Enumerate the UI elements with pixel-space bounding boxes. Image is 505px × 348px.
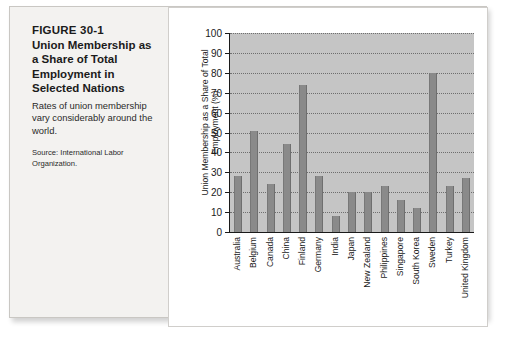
y-axis-tick-label: 0 bbox=[216, 227, 222, 238]
bar bbox=[250, 131, 258, 232]
y-axis-title: Union Membership as a Share of Total Emp… bbox=[200, 37, 221, 207]
x-axis-label-slot: South Korea bbox=[408, 234, 424, 326]
bar bbox=[315, 176, 323, 232]
y-axis-tick-label: 40 bbox=[211, 147, 222, 158]
x-axis-label-slot: Philippines bbox=[375, 234, 391, 326]
bar-slot bbox=[409, 33, 425, 232]
bar-slot bbox=[458, 33, 474, 232]
y-axis-tick-label: 50 bbox=[211, 127, 222, 138]
y-axis-tick-label: 30 bbox=[211, 167, 222, 178]
x-axis-label-slot: Belgium bbox=[245, 234, 261, 326]
figure-root: FIGURE 30-1 Union Membership as a Share … bbox=[0, 0, 505, 348]
bar bbox=[332, 216, 340, 232]
x-axis-label: New Zealand bbox=[362, 237, 372, 288]
bar bbox=[267, 184, 275, 232]
x-axis-label: Japan bbox=[346, 237, 356, 260]
x-axis-label: United Kingdom bbox=[460, 237, 470, 298]
bar-slot bbox=[441, 33, 457, 232]
bar-slot bbox=[360, 33, 376, 232]
figure-title: Union Membership as a Share of Total Emp… bbox=[32, 38, 160, 96]
bar-slot bbox=[295, 33, 311, 232]
x-axis-label: South Korea bbox=[411, 237, 421, 285]
figure-plate: FIGURE 30-1 Union Membership as a Share … bbox=[9, 6, 487, 318]
x-axis-label: Belgium bbox=[248, 237, 258, 268]
figure-caption: FIGURE 30-1 Union Membership as a Share … bbox=[32, 23, 160, 169]
bar bbox=[364, 192, 372, 232]
figure-description: Rates of union membership vary considera… bbox=[32, 100, 160, 138]
x-axis-label-slot: Finland bbox=[294, 234, 310, 326]
figure-number: FIGURE 30-1 bbox=[32, 23, 160, 37]
x-axis-label: Australia bbox=[232, 237, 242, 270]
bar-slot bbox=[279, 33, 295, 232]
y-axis-tick-label: 20 bbox=[211, 187, 222, 198]
x-axis-label-slot: New Zealand bbox=[359, 234, 375, 326]
y-axis-tick-label: 60 bbox=[211, 107, 222, 118]
x-axis-label: India bbox=[330, 237, 340, 256]
x-axis-labels: AustraliaBelgiumCanadaChinaFinlandGerman… bbox=[229, 234, 473, 326]
x-axis-label-slot: Australia bbox=[229, 234, 245, 326]
plot-area: 0102030405060708090100 bbox=[229, 33, 474, 233]
bar bbox=[283, 144, 291, 232]
bar-slot bbox=[230, 33, 246, 232]
x-axis-label: Finland bbox=[297, 237, 307, 265]
y-axis-tick-label: 100 bbox=[205, 28, 222, 39]
bar bbox=[299, 85, 307, 232]
bar bbox=[397, 200, 405, 232]
bar-slot bbox=[311, 33, 327, 232]
x-axis-label-slot: Canada bbox=[262, 234, 278, 326]
bar bbox=[462, 178, 470, 232]
bar-slot bbox=[246, 33, 262, 232]
x-axis-label: Philippines bbox=[379, 237, 389, 279]
bar-chart: Union Membership as a Share of Total Emp… bbox=[169, 8, 489, 328]
bar bbox=[413, 208, 421, 232]
chart-card: Union Membership as a Share of Total Emp… bbox=[168, 7, 488, 327]
bar-slot bbox=[344, 33, 360, 232]
y-axis-tick-label: 80 bbox=[211, 67, 222, 78]
x-axis-label: Sweden bbox=[427, 237, 437, 268]
x-axis-label: Turkey bbox=[444, 237, 454, 263]
bar bbox=[429, 73, 437, 232]
bar-slot bbox=[328, 33, 344, 232]
bar-slot bbox=[393, 33, 409, 232]
x-axis-label: Singapore bbox=[395, 237, 405, 276]
bar-slot bbox=[425, 33, 441, 232]
x-axis-label-slot: China bbox=[278, 234, 294, 326]
x-axis-label-slot: Japan bbox=[343, 234, 359, 326]
x-axis-label-slot: Germany bbox=[310, 234, 326, 326]
bar bbox=[348, 192, 356, 232]
x-axis-label-slot: Singapore bbox=[392, 234, 408, 326]
bar-slot bbox=[376, 33, 392, 232]
x-axis-label: Germany bbox=[313, 237, 323, 272]
x-axis-label: Canada bbox=[265, 237, 275, 267]
x-axis-label-slot: Turkey bbox=[440, 234, 456, 326]
bar-series bbox=[230, 33, 474, 232]
bar bbox=[234, 176, 242, 232]
bar bbox=[446, 186, 454, 232]
x-axis-label-slot: United Kingdom bbox=[457, 234, 473, 326]
figure-source: Source: International Labor Organization… bbox=[32, 148, 160, 169]
bar-slot bbox=[263, 33, 279, 232]
x-axis-label-slot: Sweden bbox=[424, 234, 440, 326]
y-axis-tick-label: 10 bbox=[211, 207, 222, 218]
x-axis-label: China bbox=[281, 237, 291, 259]
y-axis-tick-label: 90 bbox=[211, 47, 222, 58]
y-axis-tick-label: 70 bbox=[211, 87, 222, 98]
bar bbox=[381, 186, 389, 232]
x-axis-label-slot: India bbox=[327, 234, 343, 326]
y-axis-tick bbox=[225, 232, 230, 233]
